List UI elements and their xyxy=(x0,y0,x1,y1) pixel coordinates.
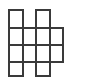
grid-cell-r1-c3 xyxy=(50,28,64,46)
polyomino-figure-svg xyxy=(0,0,92,79)
grid-cell-r3-c2 xyxy=(36,62,50,76)
grid-cell-r1-c2 xyxy=(36,28,50,46)
grid-cell-r0-c2 xyxy=(36,10,50,28)
grid-cells-layer xyxy=(9,10,63,76)
grid-cell-r0-c0 xyxy=(9,10,23,28)
grid-cell-r1-c1 xyxy=(23,28,37,46)
grid-cell-r1-c0 xyxy=(9,28,23,46)
grid-cell-r2-c2 xyxy=(36,45,50,62)
figure-canvas xyxy=(0,0,92,79)
grid-cell-r2-c1 xyxy=(23,45,37,62)
grid-cell-r3-c0 xyxy=(9,62,23,76)
grid-cell-r2-c0 xyxy=(9,45,23,62)
grid-cell-r2-c3 xyxy=(50,45,64,62)
